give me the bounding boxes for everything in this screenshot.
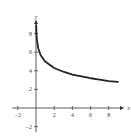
x-tick-label: 6	[89, 112, 92, 118]
curve-line	[36, 25, 118, 82]
chart-plot: −22468−22468xy	[0, 0, 131, 140]
data-curve	[36, 25, 118, 82]
y-tick-label: 8	[29, 31, 32, 37]
y-tick-label: 4	[29, 68, 32, 74]
tick-labels: −22468−22468xy	[15, 14, 131, 130]
y-tick-label: −2	[26, 124, 32, 130]
x-tick-label: 2	[53, 112, 56, 118]
x-tick-label: 4	[71, 112, 74, 118]
x-axis-label: x	[126, 105, 130, 111]
y-tick-label: 2	[29, 86, 32, 92]
y-axis-label: y	[34, 14, 38, 20]
y-tick-label: 6	[29, 49, 32, 55]
x-tick-label: −2	[15, 112, 21, 118]
x-tick-label: 8	[107, 112, 110, 118]
